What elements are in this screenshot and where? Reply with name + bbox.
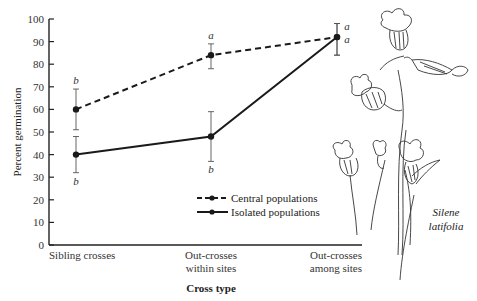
- x-category-label: Sibling crosses: [49, 249, 115, 261]
- y-tick-label: 10: [33, 216, 45, 228]
- significance-letter: b: [73, 175, 79, 187]
- y-tick-label: 30: [33, 171, 45, 183]
- y-ticks: 0102030405060708090100: [28, 13, 55, 251]
- species-name-line2: latifolia: [429, 220, 464, 232]
- y-tick-label: 90: [33, 36, 45, 48]
- series-isolated: bba: [73, 24, 350, 187]
- legend: Central populations Isolated populations: [197, 192, 320, 218]
- silene-latifolia-illustration-icon: [333, 9, 468, 280]
- y-tick-label: 70: [33, 81, 45, 93]
- legend-item-isolated: Isolated populations: [197, 206, 320, 218]
- y-tick-label: 40: [33, 149, 45, 161]
- y-tick-label: 100: [28, 13, 45, 25]
- y-tick-label: 80: [33, 58, 45, 70]
- series-line: [76, 37, 337, 109]
- x-category-label: Out-crosses: [185, 249, 237, 261]
- x-category-label: within sites: [186, 262, 236, 274]
- legend-marker-icon: [209, 209, 214, 214]
- x-category-label: among sites: [310, 262, 362, 274]
- legend-item-central: Central populations: [197, 192, 317, 204]
- data-point: [208, 52, 214, 58]
- x-category-labels: Sibling crossesOut-crosseswithin sitesOu…: [49, 249, 362, 274]
- legend-marker-icon: [209, 195, 214, 200]
- data-point: [73, 106, 79, 112]
- data-series: baabba: [73, 20, 350, 187]
- x-axis-title: Cross type: [186, 282, 236, 294]
- significance-letter: b: [208, 163, 214, 175]
- significance-letter: a: [344, 20, 350, 32]
- y-tick-label: 20: [33, 194, 45, 206]
- significance-letter: a: [208, 29, 214, 41]
- species-name-line1: Silene: [433, 206, 460, 218]
- significance-letter: b: [73, 74, 79, 86]
- y-axis-title: Percent germination: [11, 87, 23, 176]
- data-point: [334, 34, 340, 40]
- y-tick-label: 50: [33, 126, 45, 138]
- series-line: [76, 37, 337, 155]
- y-tick-label: 0: [39, 239, 45, 251]
- legend-label-central: Central populations: [231, 192, 317, 204]
- significance-letter: a: [344, 33, 350, 45]
- data-point: [208, 133, 214, 139]
- series-central: baa: [73, 20, 350, 130]
- legend-label-isolated: Isolated populations: [231, 206, 320, 218]
- x-category-label: Out-crosses: [310, 249, 362, 261]
- y-tick-label: 60: [33, 103, 45, 115]
- data-point: [73, 151, 79, 157]
- germination-chart: Percent germination 01020304050607080901…: [0, 0, 477, 301]
